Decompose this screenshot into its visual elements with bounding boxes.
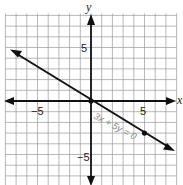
x-tick-label-neg5: −5 xyxy=(31,105,44,117)
x-tick-label-5: 5 xyxy=(140,105,146,117)
coordinate-plane: y x −5 5 5 −5 3x + 5y = 0 xyxy=(0,0,183,185)
y-tick-label-5: 5 xyxy=(81,42,87,54)
origin-point xyxy=(88,98,93,103)
y-axis-label: y xyxy=(85,0,92,14)
point-5-neg3 xyxy=(142,131,147,136)
y-tick-label-neg5: −5 xyxy=(77,151,90,163)
x-axis-right-arrow-icon xyxy=(166,97,176,105)
y-axis-down-arrow-icon xyxy=(87,176,95,185)
x-axis-label: x xyxy=(176,93,183,107)
